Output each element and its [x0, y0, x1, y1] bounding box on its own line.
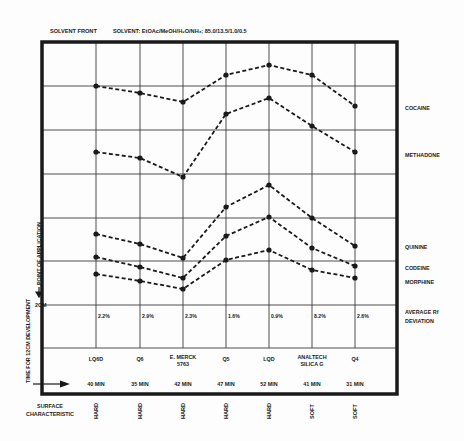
development-time-value: 35 MIN	[131, 381, 148, 387]
data-point	[137, 264, 142, 269]
solvent-label: SOLVENT: EtOAc/MeOH/H₂O/NH₃; 85.0/13.5/1…	[113, 28, 247, 34]
arrow-right-icon	[60, 381, 70, 388]
data-point	[180, 99, 185, 104]
rf-deviation-value: 2.9%	[142, 313, 154, 319]
series-label-morphine: MORPHINE	[405, 279, 434, 285]
average-rf-label: AVERAGE Rf	[405, 309, 439, 315]
rf-deviation-value: 1.6%	[228, 313, 240, 319]
data-point	[309, 245, 314, 250]
series-label-quinine: QUININE	[405, 244, 428, 250]
plate-name-row: LQ6DQ6E. MERCK5763Q5LQDANALTECHSILICA GQ…	[89, 354, 359, 367]
series-lines	[93, 62, 357, 291]
surface-characteristic-value: SOFT	[352, 404, 358, 419]
series-label-methadone: METHADONE	[405, 152, 440, 158]
data-point	[93, 83, 98, 88]
plate-name-line2: 5763	[177, 361, 189, 367]
data-point	[93, 254, 98, 259]
average-rf-deviation-row: 2.2%2.9%2.3%1.6%0.9%8.2%2.6%	[98, 313, 369, 319]
data-point	[266, 214, 271, 219]
plate-name: Q4	[351, 356, 358, 362]
time-for-development-label: TIME FOR 12CM DEVELOPMENT	[25, 298, 31, 383]
data-point	[309, 215, 314, 220]
plate-name: Q6	[136, 356, 143, 362]
data-point	[352, 243, 357, 248]
surface-characteristic-value: HARD	[137, 403, 143, 419]
solvent-front-label: SOLVENT FRONT	[50, 28, 97, 34]
plate-name: LQ6D	[89, 356, 103, 362]
plate-name: E. MERCK	[170, 354, 196, 360]
series-line-codeine	[96, 217, 355, 278]
surface-characteristic-value: HARD	[223, 403, 229, 419]
data-point	[352, 103, 357, 108]
series-labels: COCAINEMETHADONEQUININECODEINEMORPHINE	[405, 105, 440, 285]
data-point	[137, 155, 142, 160]
data-point	[266, 62, 271, 67]
data-point	[352, 275, 357, 280]
data-point	[93, 231, 98, 236]
rf-deviation-value: 0.9%	[271, 313, 283, 319]
two-cm-label: 2CM	[35, 302, 47, 308]
data-point	[309, 267, 314, 272]
surface-label-2: CHARACTERISTIC	[26, 411, 74, 417]
plate-name: ANALTECH	[297, 354, 326, 360]
development-time-value: 52 MIN	[260, 381, 277, 387]
data-point	[266, 247, 271, 252]
development-time-row: 40 MIN35 MIN42 MIN47 MIN52 MIN41 MIN31 M…	[87, 381, 363, 387]
data-point	[180, 286, 185, 291]
data-point	[137, 241, 142, 246]
development-time-value: 41 MIN	[303, 381, 320, 387]
data-point	[93, 271, 98, 276]
data-point	[223, 204, 228, 209]
surface-label-1: SURFACE	[37, 403, 63, 409]
series-label-cocaine: COCAINE	[405, 105, 430, 111]
data-point	[93, 149, 98, 154]
data-point	[180, 275, 185, 280]
data-point	[223, 72, 228, 77]
data-point	[352, 149, 357, 154]
rf-deviation-value: 2.6%	[357, 313, 369, 319]
data-point	[223, 257, 228, 262]
development-time-value: 40 MIN	[87, 381, 104, 387]
development-time-value: 47 MIN	[217, 381, 234, 387]
data-point	[309, 123, 314, 128]
data-point	[309, 72, 314, 77]
deviation-label: DEVIATION	[405, 318, 434, 324]
plate-name-line2: SILICA G	[300, 361, 323, 367]
data-point	[223, 111, 228, 116]
rf-deviation-value: 2.2%	[98, 313, 110, 319]
data-point	[266, 182, 271, 187]
data-point	[223, 233, 228, 238]
point-of-application-label: POINT OF APPLICATION	[36, 222, 42, 285]
surface-characteristic-row: HARDHARDHARDHARDHARDSOFTSOFT	[93, 403, 358, 419]
data-point	[180, 255, 185, 260]
development-time-value: 42 MIN	[174, 381, 191, 387]
data-point	[352, 263, 357, 268]
surface-characteristic-value: HARD	[266, 403, 272, 419]
surface-characteristic-value: HARD	[180, 403, 186, 419]
series-label-codeine: CODEINE	[405, 265, 430, 271]
data-point	[266, 95, 271, 100]
plate-name: LQD	[263, 356, 274, 362]
data-point	[180, 174, 185, 179]
plate-name: Q5	[222, 356, 229, 362]
rf-deviation-value: 2.3%	[185, 313, 197, 319]
series-line-quinine	[96, 185, 355, 258]
series-line-methadone	[96, 98, 355, 177]
surface-characteristic-value: HARD	[93, 403, 99, 419]
rf-deviation-value: 8.2%	[314, 313, 326, 319]
data-point	[137, 90, 142, 95]
series-line-cocaine	[96, 65, 355, 106]
tlc-chart: SOLVENT FRONT SOLVENT: EtOAc/MeOH/H₂O/NH…	[0, 0, 464, 441]
data-point	[137, 278, 142, 283]
series-line-morphine	[96, 250, 355, 289]
surface-characteristic-value: SOFT	[309, 404, 315, 419]
development-time-value: 31 MIN	[346, 381, 363, 387]
